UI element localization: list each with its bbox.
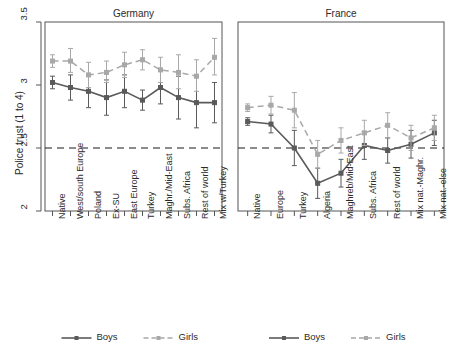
data-point-marker <box>158 86 162 90</box>
data-point-marker <box>51 80 55 84</box>
legend-label-boys: Boys <box>97 331 118 342</box>
data-point-marker <box>339 138 343 142</box>
data-point-marker <box>194 74 198 78</box>
data-point-marker <box>246 106 250 110</box>
x-axis-tick-label: Mix w/Turkey <box>218 166 228 219</box>
x-axis-tick-label: Poland <box>93 191 103 219</box>
legend-label-girls: Girls <box>386 331 406 342</box>
data-point-marker <box>316 152 320 156</box>
x-axis-tick-label: Subs. Africa <box>182 171 192 219</box>
legend-label-boys: Boys <box>304 331 325 342</box>
series-line-girls <box>53 57 215 76</box>
data-point-marker <box>386 149 390 153</box>
data-point-marker <box>105 70 109 74</box>
data-point-marker <box>292 146 296 150</box>
x-axis-tick-label: Algeria <box>322 191 332 219</box>
data-point-marker <box>362 131 366 135</box>
data-point-marker <box>176 96 180 100</box>
data-point-marker <box>69 86 73 90</box>
x-axis-tick-label: Mix nat.-Maghr. <box>415 157 425 219</box>
x-axis-tick-label: Mix nat.-else <box>438 168 448 219</box>
x-axis-tick-label: Europe <box>275 190 285 219</box>
x-axis-tick-label: Native <box>252 193 262 219</box>
data-point-marker <box>69 59 73 63</box>
x-axis-tick-label: Native <box>57 193 67 219</box>
data-point-marker <box>158 68 162 72</box>
data-point-marker <box>87 89 91 93</box>
data-point-marker <box>176 70 180 74</box>
data-point-marker <box>87 73 91 77</box>
x-axis-tick-label: Ex-SU <box>111 193 121 219</box>
data-point-marker <box>140 58 144 62</box>
data-point-marker <box>269 122 273 126</box>
data-point-marker <box>432 126 436 130</box>
x-axis-tick-label: Turkey <box>146 192 156 219</box>
data-point-marker <box>386 123 390 127</box>
x-axis-tick-label: Subs. Africa <box>368 171 378 219</box>
x-axis-tick-label: Maghr./Mid-East <box>164 153 174 219</box>
legend-label-girls: Girls <box>179 331 199 342</box>
x-axis-tick-label: Maghreb/Mid-East <box>345 145 355 219</box>
x-axis-tick-label: Rest of world <box>200 166 210 219</box>
x-axis-tick-label: West/south Europe <box>75 143 85 219</box>
data-point-marker <box>105 96 109 100</box>
data-point-marker <box>212 55 216 59</box>
data-point-marker <box>316 181 320 185</box>
data-point-marker <box>269 103 273 107</box>
panel-title-france: France <box>238 8 444 19</box>
data-point-marker <box>123 63 127 67</box>
data-point-marker <box>212 101 216 105</box>
data-point-marker <box>246 120 250 124</box>
figure-root: Police trust (1 to 4) 22.533.5GermanyNat… <box>0 0 454 359</box>
data-point-marker <box>292 108 296 112</box>
data-point-marker <box>140 98 144 102</box>
panel-france <box>238 22 444 216</box>
data-point-marker <box>409 136 413 140</box>
data-point-marker <box>339 171 343 175</box>
panel-title-germany: Germany <box>45 8 222 19</box>
x-axis-tick-label: East Europe <box>129 169 139 219</box>
series-line-boys <box>53 82 215 102</box>
y-axis <box>36 22 41 211</box>
x-axis-tick-label: Rest of world <box>392 166 402 219</box>
data-point-marker <box>51 59 55 63</box>
data-point-marker <box>194 101 198 105</box>
x-axis-tick-label: Turkey <box>298 192 308 219</box>
data-point-marker <box>123 89 127 93</box>
